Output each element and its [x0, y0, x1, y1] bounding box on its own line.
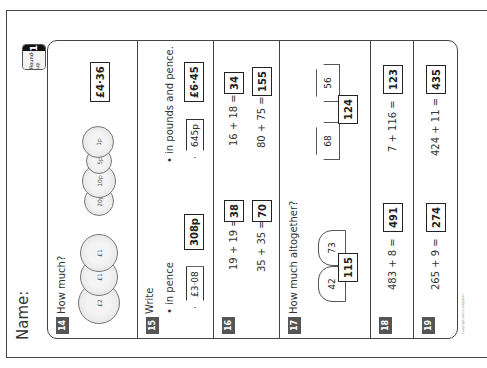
equation: 265 + 9 = [430, 238, 441, 290]
question-14: 14 How much? £2 £1 £1 20p 10p 5p 1p £4·3… [48, 41, 138, 338]
question-prompt: How much altogether? [288, 201, 299, 314]
answer-box: 308p [184, 214, 204, 250]
question-number: 16 [222, 317, 235, 334]
badge-number: 1 [23, 45, 45, 51]
bowl-item: 68 [316, 122, 340, 160]
answer-box: 70 [252, 200, 272, 222]
question-number: 17 [288, 317, 301, 334]
question-19: 19 265 + 9 = 274 424 + 11 = 435 [414, 41, 458, 338]
question-17: 17 How much altogether? 42 73 115 68 56 … [280, 41, 371, 338]
coin-1p: 1p [82, 126, 114, 158]
question-prompt: How much? [56, 256, 67, 314]
questions-panel: 14 How much? £2 £1 £1 20p 10p 5p 1p £4·3… [47, 40, 458, 339]
answer-box: £6·45 [184, 62, 204, 102]
answer-box: 38 [224, 200, 244, 222]
question-18: 18 483 + 8 = 491 7 + 116 = 123 [371, 41, 414, 338]
equation: 424 + 11 = [430, 98, 441, 156]
question-number: 19 [422, 317, 435, 334]
price-tag: £3·08 [186, 266, 204, 308]
equation: 35 + 35 = [256, 220, 267, 272]
answer-box: 124 [338, 95, 358, 124]
answer-box: 491 [383, 203, 403, 232]
equation: 19 + 19 = [228, 218, 239, 270]
name-label: Name: [14, 291, 32, 340]
round-up-badge: Round-up 1 [22, 44, 46, 70]
answer-box: £4·36 [90, 62, 110, 102]
equation: 80 + 75 = [256, 96, 267, 148]
question-15: 15 Write • in pence £3·08 308p • in poun… [138, 41, 214, 338]
copyright-footer: Copyright notice (illegible) [461, 214, 465, 334]
question-prompt: Write [144, 288, 155, 314]
badge-label: Round-up [23, 51, 45, 69]
bullet-in-pounds-and-pence: • in pounds and pence. [164, 46, 175, 163]
answer-box: 274 [426, 203, 446, 232]
question-number: 14 [56, 317, 69, 334]
answer-box: 123 [383, 65, 403, 94]
question-number: 18 [379, 317, 392, 334]
answer-box: 34 [224, 72, 244, 94]
question-number: 15 [146, 317, 159, 334]
bowl-item: 56 [316, 64, 340, 102]
coin-1-pound: £1 [80, 234, 118, 272]
equation: 7 + 116 = [387, 100, 398, 152]
answer-box: 435 [426, 65, 446, 94]
price-tag: 645p [186, 119, 204, 158]
equation: 483 + 8 = [387, 238, 398, 290]
bullet-in-pence: • in pence [164, 262, 175, 314]
answer-box: 115 [338, 253, 358, 282]
equation: 16 + 18 = [228, 94, 239, 146]
question-16: 16 19 + 19 = 38 16 + 18 = 34 35 + 35 = 7… [214, 41, 280, 338]
answer-box: 155 [252, 67, 272, 96]
